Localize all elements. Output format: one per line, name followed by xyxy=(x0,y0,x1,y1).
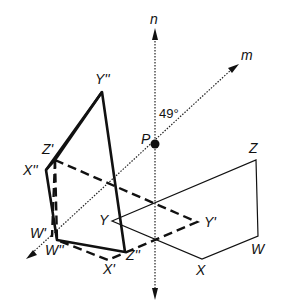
arrow-n-down-icon xyxy=(152,288,158,300)
label-angle: 49° xyxy=(159,107,179,120)
arrow-n-up-icon xyxy=(152,28,158,40)
label-p: P xyxy=(141,132,150,146)
label-z2: Z'' xyxy=(126,248,140,262)
label-w1: W' xyxy=(30,226,46,240)
label-y2: Y'' xyxy=(95,72,110,86)
label-x: X xyxy=(196,263,205,277)
label-x2: X'' xyxy=(23,163,38,177)
label-y: Y xyxy=(99,213,108,227)
figure-w1x1y1z1 xyxy=(55,160,197,260)
label-y1: Y' xyxy=(204,215,216,229)
label-w: W xyxy=(251,242,264,256)
label-n: n xyxy=(150,12,158,26)
label-z: Z xyxy=(249,141,258,155)
figure-wxyz xyxy=(112,160,258,259)
label-m: m xyxy=(241,48,253,62)
point-p xyxy=(151,140,160,149)
label-z1: Z' xyxy=(42,142,53,156)
label-x1: X' xyxy=(103,262,115,276)
label-w2: W'' xyxy=(45,243,64,257)
arrow-m-down-icon xyxy=(26,250,37,259)
